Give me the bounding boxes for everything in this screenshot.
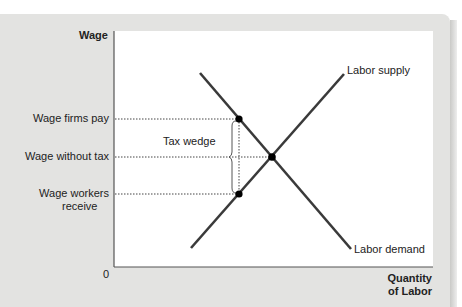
label-wage-without-tax: Wage without tax	[25, 150, 109, 163]
label-wage-workers-receive-1: Wage workers	[39, 187, 109, 200]
label-labor-demand: Labor demand	[354, 243, 425, 256]
x-axis-label-line2: of Labor	[388, 285, 432, 298]
y-axis-label: Wage	[79, 29, 108, 42]
label-wage-workers-receive-2: receive	[62, 200, 97, 213]
label-labor-supply: Labor supply	[347, 64, 410, 77]
x-axis-label-line1: Quantity	[387, 272, 432, 285]
origin-label: 0	[103, 268, 109, 281]
label-wage-firms-pay: Wage firms pay	[33, 112, 109, 125]
point-firms-pay	[235, 115, 242, 122]
labor-demand-curve	[200, 73, 351, 249]
point-equilibrium	[268, 153, 276, 161]
labor-supply-curve	[191, 74, 344, 248]
label-tax-wedge: Tax wedge	[163, 135, 216, 148]
point-workers-receive	[235, 190, 242, 197]
